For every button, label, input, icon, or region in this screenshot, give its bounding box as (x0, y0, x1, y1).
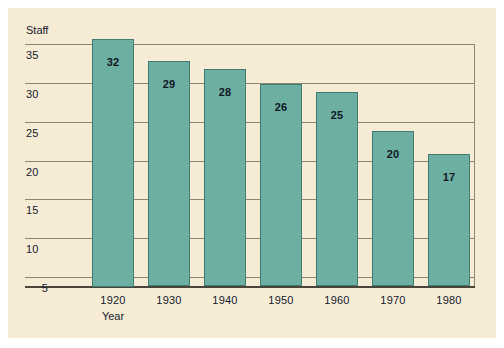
y-tick-label-10: 10 (26, 243, 56, 255)
bar-1960 (316, 92, 358, 286)
x-tick-label-1970: 1970 (370, 294, 416, 306)
x-tick-label-1950: 1950 (258, 294, 304, 306)
x-tick-label-1980: 1980 (426, 294, 472, 306)
x-tick-label-1930: 1930 (146, 294, 192, 306)
y-tick-label-25: 25 (26, 127, 56, 139)
chart-figure: Staff 35 30 25 20 15 10 5 32 29 28 26 25… (8, 8, 496, 338)
bar-value-1940: 28 (204, 86, 246, 98)
y-tick-label-35: 35 (26, 49, 56, 61)
x-tick-label-1940: 1940 (202, 294, 248, 306)
y-tick-label-5: 5 (26, 282, 48, 294)
bar-1940 (204, 69, 246, 286)
y-tick-label-15: 15 (26, 204, 56, 216)
y-tick-label-30: 30 (26, 88, 56, 100)
x-tick-label-1960: 1960 (314, 294, 360, 306)
bar-1930 (148, 61, 190, 286)
y-tick-label-20: 20 (26, 166, 56, 178)
bar-value-1960: 25 (316, 109, 358, 121)
bar-value-1930: 29 (148, 78, 190, 90)
bar-1920 (92, 39, 134, 287)
bar-1950 (260, 84, 302, 286)
y-axis-title: Staff (26, 24, 48, 36)
x-axis-title: Year (90, 310, 136, 322)
bar-value-1920: 32 (92, 56, 134, 68)
bar-value-1980: 17 (428, 171, 470, 183)
right-axis-spine (474, 44, 475, 288)
bar-value-1970: 20 (372, 148, 414, 160)
x-tick-label-1920: 1920 (90, 294, 136, 306)
bar-value-1950: 26 (260, 101, 302, 113)
